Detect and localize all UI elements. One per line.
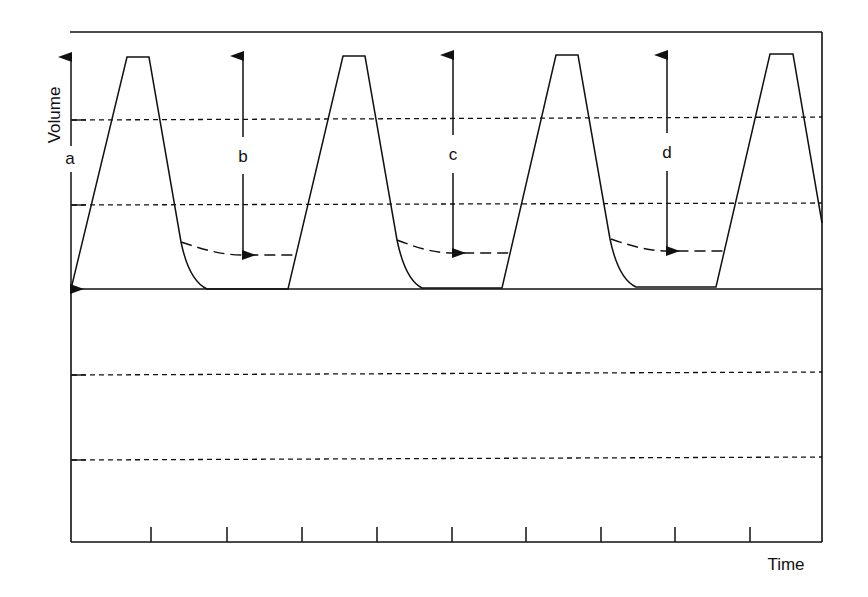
volume-waveform xyxy=(71,54,822,289)
reference-line-stubs xyxy=(71,120,86,460)
y-axis-label: Volume xyxy=(45,87,64,144)
measurement-label-c: c xyxy=(449,145,458,164)
upper-threshold-line-bottom xyxy=(72,372,822,375)
measurement-label-a: a xyxy=(65,149,75,168)
lower-threshold-line-top xyxy=(72,203,822,205)
measurement-label-b: b xyxy=(238,147,247,166)
decay-curve-b xyxy=(181,242,297,255)
x-axis-label: Time xyxy=(767,555,804,574)
x-axis-ticks xyxy=(151,527,750,542)
lower-threshold-line-bottom xyxy=(72,457,822,460)
measurement-label-d: d xyxy=(662,143,671,162)
upper-threshold-line-top xyxy=(72,117,822,120)
measurement-arrows xyxy=(71,55,667,289)
volume-time-diagram: a b c d Volume Time xyxy=(0,0,868,597)
